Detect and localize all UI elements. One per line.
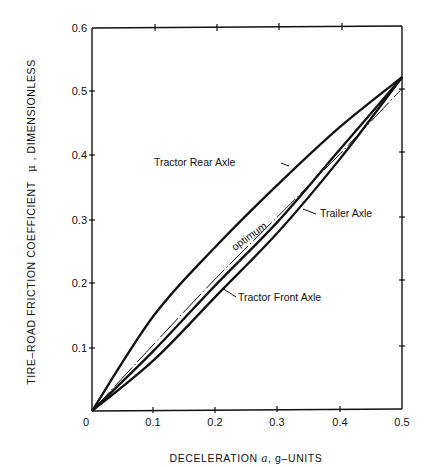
leader-rear xyxy=(281,163,289,166)
x-tick-labels: 0 0.1 0.2 0.3 0.4 0.5 xyxy=(83,416,410,428)
origin-label: 0 xyxy=(83,416,89,428)
label-tractor-front-axle: Tractor Front Axle xyxy=(238,291,321,303)
y-tick-0.2: 0.2 xyxy=(72,277,87,289)
y-axis-title: TIRE–ROAD FRICTION COEFFICIENT μ, DIMENS… xyxy=(25,59,37,385)
x-tick-0.4: 0.4 xyxy=(332,416,347,428)
y-tick-0.6: 0.6 xyxy=(72,22,87,34)
y-tick-0.1: 0.1 xyxy=(72,342,87,354)
x-axis xyxy=(92,409,402,411)
x-tick-0.3: 0.3 xyxy=(269,416,284,428)
friction-chart: 0.6 0.5 0.4 0.3 0.2 0.1 0 0.1 0.2 0.3 0.… xyxy=(0,0,430,467)
leader-front xyxy=(222,288,236,297)
y-tick-0.5: 0.5 xyxy=(72,85,87,97)
curve-annotations: Tractor Rear Axle Trailer Axle Tractor F… xyxy=(154,156,372,303)
y-tick-0.4: 0.4 xyxy=(72,149,87,161)
y-tick-0.3: 0.3 xyxy=(72,214,87,226)
top-border xyxy=(92,26,402,28)
x-tick-0.1: 0.1 xyxy=(145,416,160,428)
label-trailer-axle: Trailer Axle xyxy=(320,207,372,219)
x-axis-title: DECELERATION a, g–UNITS xyxy=(170,452,323,464)
label-tractor-rear-axle: Tractor Rear Axle xyxy=(154,156,235,168)
x-tick-0.5: 0.5 xyxy=(394,416,409,428)
y-tick-labels: 0.6 0.5 0.4 0.3 0.2 0.1 xyxy=(72,22,87,354)
x-tick-0.2: 0.2 xyxy=(207,416,222,428)
leader-trailer xyxy=(303,209,316,214)
curve-optimum xyxy=(92,89,402,411)
